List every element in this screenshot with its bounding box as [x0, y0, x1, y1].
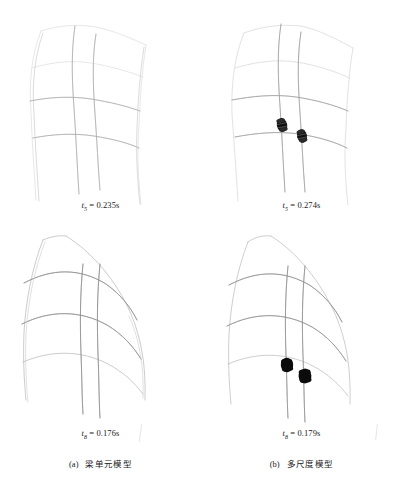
deformed-frame-drawing-bottom-right	[201, 228, 402, 433]
figure-panel-top-left: t5 = 0.235s	[0, 0, 201, 228]
subcaption-a-text: 梁单元模型	[85, 459, 132, 469]
time-label-bottom-right: t8 = 0.179s	[201, 428, 402, 440]
subcaption-b-marker: (b)	[270, 459, 280, 469]
subcaption-row: (a)梁单元模型 (b)多尺度模型	[0, 455, 402, 485]
figure-panel-top-right: t5 = 0.274s	[201, 0, 402, 228]
time-label-top-right: t5 = 0.274s	[201, 200, 402, 212]
time-value: = 0.235s	[89, 200, 119, 210]
subcaption-a: (a)梁单元模型	[0, 457, 201, 469]
time-subscript: 8	[84, 434, 87, 440]
figure-panel-bottom-left: t8 = 0.176s	[0, 228, 201, 456]
time-value: = 0.176s	[89, 428, 119, 438]
time-label-bottom-left: t8 = 0.176s	[0, 428, 201, 440]
subcaption-b: (b)多尺度模型	[201, 457, 402, 469]
deformed-frame-drawing-bottom-left	[0, 228, 201, 433]
time-value: = 0.274s	[290, 200, 320, 210]
refined-zone-group	[280, 357, 312, 384]
time-subscript: 5	[285, 206, 288, 212]
deformed-frame-drawing-top-right	[201, 0, 402, 205]
figure-page: t5 = 0.235s	[0, 0, 402, 485]
time-subscript: 8	[285, 434, 288, 440]
subcaption-a-marker: (a)	[69, 459, 78, 469]
figure-grid: t5 = 0.235s	[0, 0, 402, 455]
refined-zone-group	[275, 117, 308, 144]
deformed-frame-drawing-top-left	[0, 0, 201, 205]
time-label-top-left: t5 = 0.235s	[0, 200, 201, 212]
time-value: = 0.179s	[290, 428, 320, 438]
subcaption-b-text: 多尺度模型	[287, 459, 334, 469]
figure-panel-bottom-right: t8 = 0.179s	[201, 228, 402, 456]
